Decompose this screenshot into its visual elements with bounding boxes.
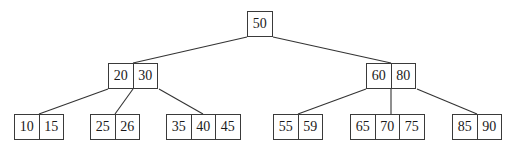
tree-node-leaf-55-59: 5559 [273,114,323,140]
node-key: 40 [191,114,217,140]
node-key: 35 [166,114,192,140]
node-key: 59 [298,114,324,140]
node-key: 85 [452,114,478,140]
node-key: 60 [366,63,392,89]
tree-node-leaf-35-40-45: 354045 [166,114,241,140]
node-key: 30 [133,63,159,89]
node-key: 50 [247,11,273,37]
tree-node-n-60-80: 6080 [366,63,416,89]
node-key: 75 [399,114,425,140]
tree-node-leaf-10-15: 1015 [14,114,64,140]
edge-n-20-30-to-leaf-25-26 [115,89,133,114]
tree-node-n-20-30: 2030 [108,63,158,89]
node-key: 70 [375,114,401,140]
node-key: 25 [90,114,116,140]
node-key: 26 [115,114,141,140]
node-key: 90 [477,114,503,140]
node-key: 20 [108,63,134,89]
edge-n-60-80-to-leaf-85-90 [417,89,477,114]
node-key: 65 [350,114,376,140]
node-key: 15 [39,114,65,140]
edge-n-20-30-to-leaf-10-15 [39,89,108,114]
tree-node-root: 50 [247,11,273,37]
node-key: 10 [14,114,40,140]
tree-node-leaf-85-90: 8590 [452,114,502,140]
node-key: 80 [391,63,417,89]
node-key: 45 [215,114,241,140]
edge-root-to-n-20-30 [133,37,247,63]
b-tree-diagram: 50203060801015252635404555596570758590 [0,0,514,153]
tree-node-leaf-25-26: 2526 [90,114,140,140]
edge-root-to-n-60-80 [273,37,391,63]
edge-n-20-30-to-leaf-35-40-45 [159,89,203,114]
node-key: 55 [273,114,299,140]
edge-n-60-80-to-leaf-55-59 [298,89,366,114]
tree-node-leaf-65-70-75: 657075 [350,114,425,140]
